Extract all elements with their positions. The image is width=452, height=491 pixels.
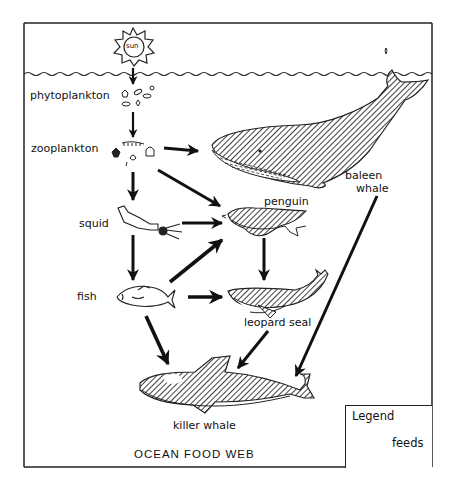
- arrow-zooplankton-to-baleen-whale: [164, 148, 198, 151]
- penguin-label: penguin: [264, 196, 309, 207]
- water-surface-waves: [24, 73, 432, 76]
- penguin-icon: [222, 208, 306, 236]
- leopard-seal-icon: [228, 270, 328, 318]
- fish-icon: [117, 286, 175, 308]
- baleen-whale-icon: [212, 48, 428, 188]
- arrow-zooplankton-to-penguin: [158, 170, 220, 206]
- zooplankton-icon: [112, 142, 154, 166]
- ocean-food-web-diagram: sun phytoplankton zooplankton baleen wha…: [0, 0, 452, 491]
- squid-label: squid: [79, 218, 109, 229]
- legend-feeds-label: feeds: [392, 438, 424, 450]
- killer-whale-icon: [140, 356, 314, 413]
- phytoplankton-label: phytoplankton: [30, 90, 110, 101]
- killer-whale-label: killer whale: [173, 420, 236, 431]
- arrow-fish-to-penguin: [170, 240, 222, 282]
- zooplankton-label: zooplankton: [31, 143, 98, 154]
- arrow-leopard-seal-to-killer-whale: [238, 331, 268, 368]
- baleen-whale-label-line1: baleen: [345, 170, 382, 181]
- sun-label: sun: [126, 43, 139, 50]
- baleen-whale-label-line2: whale: [356, 183, 389, 194]
- leopard-seal-label: leopard seal: [244, 317, 311, 328]
- phytoplankton-icon: [122, 86, 154, 106]
- diagram-title: OCEAN FOOD WEB: [134, 448, 255, 460]
- arrow-fish-to-killer-whale: [146, 316, 168, 364]
- legend-title: Legend: [352, 411, 394, 423]
- fish-label: fish: [77, 291, 97, 302]
- squid-icon: [118, 206, 182, 239]
